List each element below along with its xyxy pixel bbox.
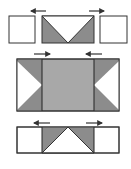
top-right-square	[100, 16, 127, 43]
stage-bottom	[17, 123, 119, 153]
stage-middle	[17, 54, 119, 111]
top-left-square	[9, 16, 35, 43]
stage-top	[9, 11, 127, 43]
folding-diagram	[0, 0, 131, 169]
